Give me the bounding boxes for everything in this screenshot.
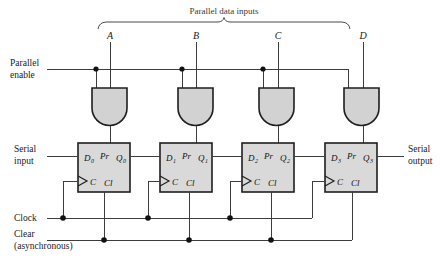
flipflop-1-c-label: C (172, 177, 179, 187)
flipflop-2-cl-label: Cl (268, 178, 277, 188)
flipflop-2: D 2 Pr Q 2 C Cl (242, 143, 294, 192)
clear-label-line2: (asynchronous) (14, 241, 73, 252)
junction-clr-1 (186, 237, 192, 243)
flipflop-1-d-label: D (165, 153, 173, 163)
flipflop-0-d-label: D (83, 153, 91, 163)
flipflop-2-d-sub: 2 (255, 158, 258, 164)
flipflop-2-pr-label: Pr (263, 151, 273, 161)
junction-clk-2 (227, 215, 233, 221)
parallel-enable-label-line1: Parallel (10, 58, 39, 68)
parallel-enable-bus (47, 66, 348, 88)
clock-branch-0 (63, 181, 78, 218)
data-input-label-d: D (358, 30, 367, 41)
data-input-label-a: A (106, 30, 114, 41)
parallel-data-inputs-label: Parallel data inputs (190, 6, 259, 16)
and-gate-2 (259, 88, 294, 143)
clock-branch-2 (230, 181, 242, 218)
data-input-label-b: B (193, 30, 199, 41)
flipflop-0-cl-label: Cl (104, 178, 113, 188)
parallel-data-inputs-brace (98, 18, 350, 30)
data-input-wires (110, 42, 363, 88)
junction-clk-0 (60, 215, 66, 221)
flipflop-1: D 1 Pr Q 1 C Cl (160, 143, 212, 192)
flipflop-3: D 3 Pr Q 3 C Cl (325, 143, 377, 192)
flipflop-2-d-label: D (247, 153, 255, 163)
flipflop-2-q-label: Q (280, 153, 287, 163)
junction-pe-0 (93, 66, 98, 71)
flipflop-1-q-label: Q (198, 153, 205, 163)
flipflop-1-cl-label: Cl (186, 178, 195, 188)
clock-branch-1 (148, 181, 160, 218)
clock-label: Clock (14, 213, 37, 223)
junction-pe-1 (179, 66, 184, 71)
flipflop-3-cl-label: Cl (351, 178, 360, 188)
serial-output-label-line1: Serial (408, 144, 431, 154)
flipflop-3-d-label: D (330, 153, 338, 163)
flipflop-3-d-sub: 3 (337, 158, 341, 164)
serial-input-label-line1: Serial (14, 144, 37, 154)
flipflop-3-c-label: C (337, 177, 344, 187)
flipflop-0-c-label: C (90, 177, 97, 187)
flipflop-3-q-label: Q (363, 153, 370, 163)
junction-clr-2 (268, 237, 274, 243)
clock-branch-3 (312, 181, 325, 218)
junction-pe-2 (260, 66, 265, 71)
flipflop-0-pr-label: Pr (99, 151, 109, 161)
parallel-enable-label-line2: enable (10, 70, 35, 80)
flipflop-0: D 0 Pr Q 0 C Cl (78, 143, 130, 192)
junction-clr-0 (101, 237, 107, 243)
flipflop-1-q-sub: 1 (205, 158, 208, 164)
flipflop-0-d-sub: 0 (91, 158, 94, 164)
flipflop-1-d-sub: 1 (173, 158, 176, 164)
flipflop-2-c-label: C (254, 177, 261, 187)
and-gate-3 (344, 88, 379, 143)
serial-input-label-line2: input (14, 156, 34, 166)
junction-clk-1 (145, 215, 151, 221)
clear-label-line1: Clear (14, 229, 35, 239)
flipflop-0-q-sub: 0 (123, 158, 126, 164)
clear-bus (47, 192, 352, 243)
flipflop-1-pr-label: Pr (181, 151, 191, 161)
flipflop-0-q-label: Q (116, 153, 123, 163)
figure-canvas: Parallel data inputs A B C D Parallel en… (0, 0, 448, 268)
flipflop-3-q-sub: 3 (369, 158, 373, 164)
flipflop-2-q-sub: 2 (287, 158, 290, 164)
and-gate-1 (178, 88, 213, 143)
and-gate-0 (92, 88, 127, 143)
flipflop-3-pr-label: Pr (346, 151, 356, 161)
serial-output-label-line2: output (408, 156, 433, 166)
data-input-label-c: C (275, 30, 282, 41)
